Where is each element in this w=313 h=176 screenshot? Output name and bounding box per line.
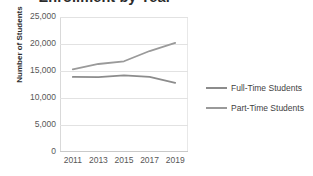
x-axis-tick-label: 2015 [115, 155, 134, 165]
y-axis-tick-label: 25,000 [2, 11, 56, 21]
legend-label: Part-Time Students [231, 103, 304, 113]
plot-area [60, 17, 188, 152]
legend-line-swatch [206, 87, 227, 89]
x-axis-tick-label: 2017 [140, 155, 159, 165]
y-axis-tick-label: 10,000 [2, 92, 56, 102]
x-axis-tick-labels: 20112013201520172019 [60, 155, 188, 171]
legend-entry[interactable]: Full-Time Students [206, 78, 313, 98]
series-line [73, 75, 175, 83]
y-axis-tick-label: 20,000 [2, 38, 56, 48]
x-axis-tick-label: 2011 [64, 155, 82, 165]
y-axis-tick-label: 5,000 [2, 119, 56, 129]
series-lines [60, 17, 188, 152]
enrollment-line-chart: Enrollment by Year Number of Students 05… [0, 0, 313, 176]
y-axis-tick-labels: 05,00010,00015,00020,00025,000 [0, 0, 56, 176]
y-axis-tick-label: 15,000 [2, 65, 56, 75]
x-axis-tick-label: 2019 [166, 155, 185, 165]
series-line [73, 43, 175, 69]
legend-line-swatch [206, 107, 227, 109]
legend-entry[interactable]: Part-Time Students [206, 98, 313, 118]
chart-legend: Full-Time StudentsPart-Time Students [206, 78, 313, 118]
y-axis-tick-label: 0 [2, 146, 56, 156]
x-axis-tick-label: 2013 [89, 155, 108, 165]
legend-label: Full-Time Students [231, 83, 302, 93]
